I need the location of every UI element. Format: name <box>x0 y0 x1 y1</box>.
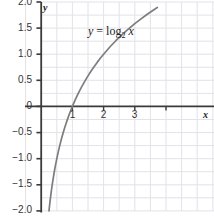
equation-lhs: y <box>88 24 93 38</box>
y-tick-label-0.5: 0.5 <box>2 75 32 85</box>
x-axis-label: x <box>203 110 208 120</box>
equation-argument: x <box>128 24 133 38</box>
y-tick-label-1.5: 1.5 <box>2 23 32 33</box>
y-tick-label-2.0: 2.0 <box>2 0 32 7</box>
y-tick-label-neg1.0: −1.0 <box>0 153 32 163</box>
x-tick-label-2: 2 <box>94 110 113 120</box>
y-tick-label-0: 0 <box>2 101 32 111</box>
y-tick-label-neg0.5: −0.5 <box>0 127 32 137</box>
y-tick-label-1.0: 1.0 <box>2 49 32 59</box>
y-axis-label: y <box>43 3 47 13</box>
equation-base: 2 <box>121 31 125 40</box>
equation-annotation: y = log2 x <box>88 25 134 40</box>
equation-operator: = <box>96 24 103 38</box>
x-tick-label-1: 1 <box>63 110 82 120</box>
log-function-chart: 2.0 1.5 1.0 0.5 0 −0.5 −1.0 −1.5 −2.0 1 … <box>0 0 214 216</box>
x-tick-label-3: 3 <box>125 110 144 120</box>
equation-function: log <box>106 24 121 38</box>
y-tick-label-neg2.0: −2.0 <box>0 205 32 215</box>
y-tick-label-neg1.5: −1.5 <box>0 179 32 189</box>
